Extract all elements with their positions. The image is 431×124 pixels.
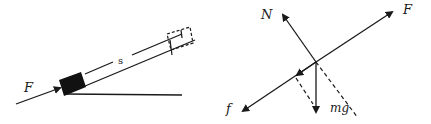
displacement-s-label: s [118, 55, 123, 66]
track-upper-left [85, 62, 113, 74]
incline-figure: F s [16, 27, 195, 104]
applied-force-arrow [316, 12, 392, 62]
friction-label: f [225, 101, 233, 116]
applied-force-label: F [402, 2, 413, 17]
normal-force-label: N [260, 7, 273, 22]
normal-force-arrow [283, 15, 316, 62]
free-body-diagram: N F f mg [225, 2, 413, 118]
force-F-label: F [23, 80, 34, 95]
block [59, 72, 86, 96]
weight-label: mg [330, 101, 349, 115]
dashed-projection-line [296, 78, 313, 104]
force-F-arrow [16, 88, 60, 104]
track-upper-right [132, 34, 182, 55]
weight-parallel-component-arrow [297, 62, 316, 75]
displacement-end-cap [181, 30, 182, 38]
physics-diagram: F s N F f mg [0, 0, 431, 124]
ground-line [66, 94, 182, 95]
